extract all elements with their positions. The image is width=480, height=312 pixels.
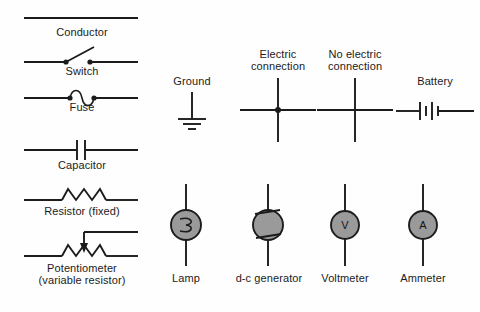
battery-symbol	[396, 100, 476, 122]
resistor-label: Resistor (fixed)	[24, 205, 140, 218]
switch-label: Switch	[24, 65, 140, 78]
lamp-label: Lamp	[154, 272, 218, 285]
electric-connection-label-line2: connection	[238, 60, 318, 73]
voltmeter-label: Voltmeter	[310, 272, 380, 285]
battery-label: Battery	[400, 75, 470, 88]
symbol-reference-figure: Conductor Switch Fuse Capacitor Resistor…	[0, 0, 480, 312]
dc-generator-symbol	[244, 184, 292, 266]
electric-connection-label-line1: Electric	[238, 48, 318, 61]
fuse-label: Fuse	[24, 101, 140, 114]
ammeter-symbol: A	[399, 184, 447, 266]
ground-symbol	[170, 92, 214, 134]
voltmeter-symbol: V	[321, 184, 369, 266]
potentiometer-label-line1: Potentiometer	[24, 262, 140, 275]
lamp-symbol	[162, 184, 210, 266]
voltmeter-glyph: V	[341, 219, 349, 231]
ammeter-label: Ammeter	[390, 272, 456, 285]
capacitor-label: Capacitor	[24, 159, 140, 172]
ground-label: Ground	[160, 75, 224, 88]
potentiometer-symbol	[24, 228, 140, 262]
conductor-symbol	[24, 12, 140, 24]
no-electric-connection-symbol	[317, 78, 393, 144]
potentiometer-label-line2: (variable resistor)	[14, 274, 150, 287]
capacitor-symbol	[24, 136, 140, 158]
no-electric-connection-label-line1: No electric	[312, 48, 398, 61]
no-electric-connection-label-line2: connection	[312, 60, 398, 73]
electric-connection-symbol	[240, 78, 316, 144]
resistor-symbol	[24, 184, 140, 206]
conductor-label: Conductor	[24, 26, 140, 39]
dc-generator-label: d-c generator	[228, 272, 310, 285]
ammeter-glyph: A	[419, 219, 427, 231]
